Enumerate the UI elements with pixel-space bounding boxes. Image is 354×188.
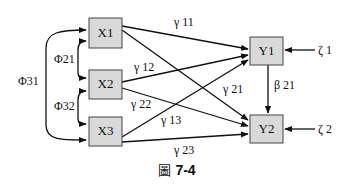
label-zeta2: ζ 2 — [318, 122, 332, 136]
label-gamma12: γ 12 — [133, 60, 154, 74]
node-y2-label: Y2 — [259, 121, 275, 136]
path-gamma23 — [122, 134, 248, 142]
node-x3-label: X3 — [98, 123, 114, 138]
covariance-phi21-curve — [78, 41, 86, 78]
label-phi31: Φ31 — [18, 74, 39, 88]
figure-number: 7-4 — [175, 162, 195, 178]
label-gamma11: γ 11 — [173, 15, 194, 29]
node-x3: X3 — [89, 117, 122, 146]
node-x1: X1 — [89, 18, 122, 48]
label-phi32: Φ32 — [54, 99, 75, 113]
node-y1: Y1 — [250, 37, 283, 65]
node-y2: Y2 — [250, 115, 283, 143]
path-gamma11 — [122, 26, 248, 49]
node-y1-label: Y1 — [259, 43, 275, 58]
covariance-phi32-curve — [78, 91, 86, 124]
label-gamma21: γ 21 — [222, 82, 243, 96]
node-x2-label: X2 — [98, 76, 114, 91]
node-x1-label: X1 — [98, 25, 114, 40]
figure-caption: 圖7-4 — [0, 160, 354, 179]
label-gamma23: γ 23 — [173, 143, 194, 157]
label-gamma22: γ 22 — [130, 97, 151, 111]
figure-glyph: 圖 — [158, 163, 171, 178]
label-phi21: Φ21 — [54, 52, 75, 66]
label-zeta1: ζ 1 — [318, 43, 332, 57]
label-gamma13: γ 13 — [160, 113, 181, 127]
label-beta21: β 21 — [274, 78, 295, 92]
node-x2: X2 — [89, 70, 122, 99]
